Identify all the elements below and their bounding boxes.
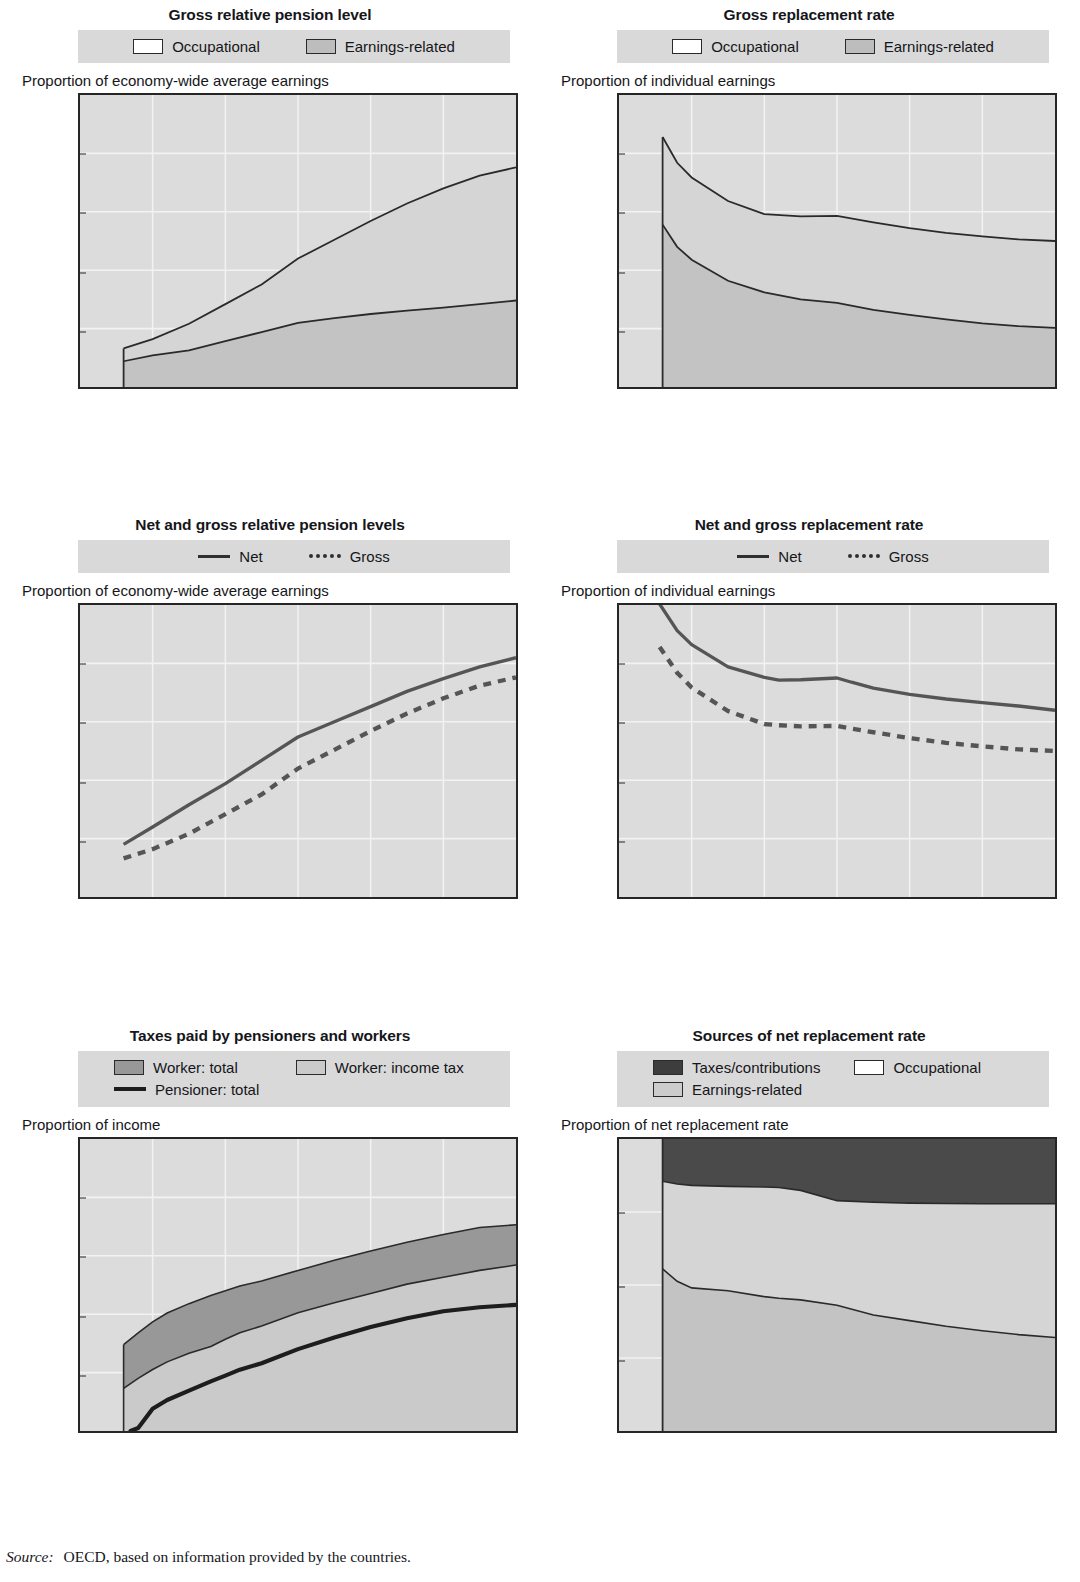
- legend-item-earnings-related[interactable]: Earnings-related: [653, 1081, 802, 1098]
- plot-area: 0 0.25 0.50 0.75 1.00 1.25 0 0.5 1.0 1.5…: [617, 93, 1057, 389]
- solid-line-icon: [114, 1087, 146, 1091]
- ytick-mark: [80, 1198, 86, 1199]
- panel-sources-of-net-replacement-rate: Sources of net replacement rate Taxes/co…: [539, 1025, 1079, 1433]
- chart-title: Taxes paid by pensioners and workers: [0, 1025, 540, 1047]
- gridlines: [619, 605, 1055, 897]
- legend-label: Occupational: [893, 1059, 981, 1076]
- legend-item-worker-total[interactable]: Worker: total: [114, 1059, 238, 1076]
- legend-label: Earnings-related: [692, 1081, 802, 1098]
- source-text: OECD, based on information provided by t…: [64, 1548, 411, 1565]
- legend-item-worker-income-tax[interactable]: Worker: income tax: [296, 1059, 464, 1076]
- y-axis-caption: Proportion of individual earnings: [561, 72, 1079, 91]
- source-note: Source: OECD, based on information provi…: [6, 1548, 411, 1566]
- earnings-related-swatch-icon: [653, 1082, 683, 1097]
- line-net: [660, 605, 1055, 710]
- legend-label: Earnings-related: [345, 38, 455, 55]
- legend-label: Gross: [350, 548, 390, 565]
- ytick-mark: [80, 272, 86, 273]
- plot-svg: [80, 1139, 516, 1431]
- legend-label: Earnings-related: [884, 38, 994, 55]
- solid-line-icon: [198, 555, 230, 558]
- ytick-mark: [619, 1213, 625, 1214]
- ytick-mark: [619, 1361, 625, 1362]
- plot-svg: [619, 95, 1055, 387]
- legend-item-occupational[interactable]: Occupational: [854, 1059, 981, 1076]
- panel-net-gross-replacement-rate: Net and gross replacement rate Net Gross…: [539, 514, 1079, 899]
- legend-label: Net: [778, 548, 801, 565]
- chart-title: Net and gross relative pension levels: [0, 514, 540, 536]
- y-axis-caption: Proportion of income: [22, 1116, 540, 1135]
- ytick-mark: [80, 331, 86, 332]
- ytick-mark: [619, 154, 625, 155]
- legend-item-pensioner-total[interactable]: Pensioner: total: [114, 1081, 259, 1098]
- chart-title: Sources of net replacement rate: [539, 1025, 1079, 1047]
- chart-legend: Taxes/contributions Occupational Earning…: [617, 1051, 1049, 1107]
- legend-label: Gross: [889, 548, 929, 565]
- chart-title: Gross relative pension level: [0, 4, 540, 26]
- legend-item-earnings-related[interactable]: Earnings-related: [845, 38, 994, 55]
- plot-area: 0 0.5 1.0 1.5 2.0 2.5 0 0.5 1.0 1.5 2.0 …: [78, 93, 518, 389]
- legend-label: Taxes/contributions: [692, 1059, 820, 1076]
- ytick-mark: [80, 841, 86, 842]
- ytick-mark: [619, 1287, 625, 1288]
- legend-item-earnings-related[interactable]: Earnings-related: [306, 38, 455, 55]
- ytick-mark: [619, 841, 625, 842]
- plot-area: 0 0.25 0.50 0.75 1.00 1.25 0 0.5 1.0 1.5…: [617, 603, 1057, 899]
- source-label: Source:: [6, 1548, 54, 1565]
- legend-item-occupational[interactable]: Occupational: [672, 38, 799, 55]
- ytick-mark: [80, 1257, 86, 1258]
- legend-label: Occupational: [172, 38, 260, 55]
- plot-svg: [619, 605, 1055, 897]
- panel-gross-replacement-rate: Gross replacement rate Occupational Earn…: [539, 4, 1079, 389]
- y-axis-caption: Proportion of economy-wide average earni…: [22, 72, 540, 91]
- worker-total-swatch-icon: [114, 1060, 144, 1075]
- ytick-mark: [619, 723, 625, 724]
- ytick-mark: [619, 331, 625, 332]
- ytick-mark: [80, 1375, 86, 1376]
- y-axis-caption: Proportion of individual earnings: [561, 582, 1079, 601]
- chart-legend: Occupational Earnings-related: [617, 30, 1049, 63]
- ytick-mark: [80, 154, 86, 155]
- occupational-swatch-icon: [672, 39, 702, 54]
- panel-taxes-paid-by-pensioners-and-workers: Taxes paid by pensioners and workers Wor…: [0, 1025, 540, 1433]
- y-axis-caption: Proportion of economy-wide average earni…: [22, 582, 540, 601]
- legend-label: Worker: total: [153, 1059, 238, 1076]
- legend-item-net[interactable]: Net: [737, 548, 801, 565]
- legend-label: Occupational: [711, 38, 799, 55]
- chart-legend: Net Gross: [617, 540, 1049, 573]
- ytick-mark: [619, 664, 625, 665]
- plot-svg: [80, 605, 516, 897]
- occupational-swatch-icon: [133, 39, 163, 54]
- legend-item-net[interactable]: Net: [198, 548, 262, 565]
- y-axis-caption: Proportion of net replacement rate: [561, 1116, 1079, 1135]
- line-gross: [124, 677, 516, 858]
- plot-svg: [80, 95, 516, 387]
- plot-svg: [619, 1139, 1055, 1431]
- ytick-mark: [80, 213, 86, 214]
- panel-gross-relative-pension-level: Gross relative pension level Occupationa…: [0, 4, 540, 389]
- occupational-swatch-icon: [854, 1060, 884, 1075]
- ytick-mark: [619, 213, 625, 214]
- ytick-mark: [80, 782, 86, 783]
- ytick-mark: [80, 664, 86, 665]
- legend-label: Net: [239, 548, 262, 565]
- earnings-related-swatch-icon: [306, 39, 336, 54]
- solid-line-icon: [737, 555, 769, 558]
- worker-income-tax-swatch-icon: [296, 1060, 326, 1075]
- plot-area: 0 0.5 1.0 1.5 2.0 2.5 0 0.5 1.0 1.5 2.0 …: [78, 603, 518, 899]
- chart-title: Gross replacement rate: [539, 4, 1079, 26]
- legend-item-gross[interactable]: Gross: [309, 548, 390, 565]
- ytick-mark: [80, 723, 86, 724]
- legend-item-occupational[interactable]: Occupational: [133, 38, 260, 55]
- taxes-contributions-swatch-icon: [653, 1060, 683, 1075]
- legend-item-gross[interactable]: Gross: [848, 548, 929, 565]
- chart-title: Net and gross replacement rate: [539, 514, 1079, 536]
- plot-area: 0 0.25 0.50 0.75 1.00 0 0.5 1.0 1.5 2.0 …: [617, 1137, 1057, 1433]
- chart-legend: Net Gross: [78, 540, 510, 573]
- chart-legend: Occupational Earnings-related: [78, 30, 510, 63]
- chart-legend: Worker: total Worker: income tax Pension…: [78, 1051, 510, 1107]
- legend-label: Worker: income tax: [335, 1059, 464, 1076]
- legend-item-taxes-contributions[interactable]: Taxes/contributions: [653, 1059, 820, 1076]
- panel-net-gross-relative-pension-levels: Net and gross relative pension levels Ne…: [0, 514, 540, 899]
- line-net: [124, 658, 516, 845]
